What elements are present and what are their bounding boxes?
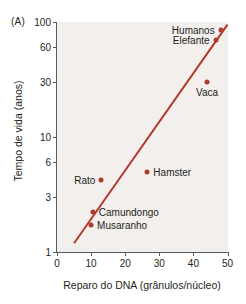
y-axis-tick-label: 3 [45, 191, 51, 202]
data-point [213, 37, 218, 42]
y-axis-tick-label: 6 [45, 157, 51, 168]
x-axis-tick [159, 252, 160, 256]
plot-area: 13610306010001020304050HumanosElefanteVa… [56, 22, 228, 253]
y-axis-tick [53, 162, 57, 163]
y-axis-tick [53, 137, 57, 138]
x-axis-tick [91, 252, 92, 256]
y-axis-tick [53, 82, 57, 83]
y-axis-tick [53, 22, 57, 23]
data-point [218, 28, 223, 33]
x-axis-tick [57, 252, 58, 256]
data-point [89, 223, 94, 228]
y-axis-tick-label: 100 [34, 17, 51, 28]
y-axis-tick-label: 60 [40, 42, 51, 53]
y-axis-title: Tempo de vida (anos) [12, 51, 24, 211]
y-axis-tick-label: 30 [40, 77, 51, 88]
data-point [99, 177, 104, 182]
x-axis-tick-label: 0 [54, 258, 60, 269]
data-point [205, 80, 210, 85]
figure-panel-a: (A) 13610306010001020304050HumanosElefan… [0, 0, 246, 304]
x-axis-tick [228, 252, 229, 256]
x-axis-tick-label: 20 [120, 258, 131, 269]
data-point-label: Rato [74, 174, 95, 185]
data-point [90, 210, 95, 215]
x-axis-tick-label: 30 [154, 258, 165, 269]
data-point-label: Hamster [153, 167, 191, 178]
data-point-label: Vaca [196, 87, 218, 98]
data-point-label: Musaranho [97, 220, 147, 231]
data-point-label: Camundongo [99, 207, 159, 218]
x-axis-title: Reparo do DNA (grânulos/núcleo) [56, 279, 228, 291]
y-axis-tick-label: 10 [40, 131, 51, 142]
panel-label: (A) [11, 16, 25, 27]
x-axis-tick [193, 252, 194, 256]
x-axis-tick [125, 252, 126, 256]
x-axis-tick-label: 10 [86, 258, 97, 269]
x-axis-tick-label: 50 [222, 258, 233, 269]
x-axis-tick-label: 40 [188, 258, 199, 269]
y-axis-tick-label: 1 [45, 246, 51, 257]
y-axis-tick [53, 47, 57, 48]
data-point [145, 170, 150, 175]
data-point-label: Elefante [173, 34, 210, 45]
y-axis-tick [53, 197, 57, 198]
plot-inner: 13610306010001020304050HumanosElefanteVa… [57, 22, 228, 252]
